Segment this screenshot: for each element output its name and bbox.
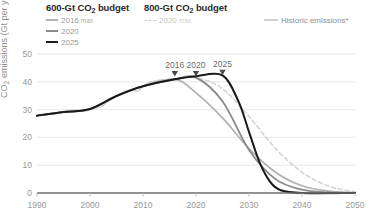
- legend-item-800-2020[interactable]: 2020 max: [144, 15, 227, 25]
- legend-item-800-2020-suffix: max: [179, 17, 191, 24]
- legend-600-title-sub: 2: [92, 7, 96, 14]
- x-tick-label: 2030: [240, 200, 259, 210]
- x-tick-labels: 1990200020102020203020402050: [28, 200, 365, 210]
- x-tick-label: 2020: [187, 200, 206, 210]
- legend-item-600-2020-label: 2020: [61, 27, 79, 36]
- legend-item-historic-label: Historic emissions: [281, 16, 345, 25]
- x-tick-label: 2040: [293, 200, 312, 210]
- x-tick-label: 1990: [28, 200, 47, 210]
- legend-800-title-tail: budget: [193, 2, 227, 13]
- x-tick-label: 2010: [134, 200, 153, 210]
- legend-line-swatch-icon: [264, 19, 278, 21]
- legend-item-historic-marker: *: [345, 16, 348, 25]
- legend-item-historic[interactable]: Historic emissions*: [264, 15, 349, 25]
- y-tick-label: 10: [23, 160, 33, 170]
- legend-group-600gt-title: 600-Gt CO2 budget: [46, 2, 129, 14]
- y-tick-label: 0: [27, 188, 32, 198]
- annotation-label: 2020: [187, 60, 206, 70]
- x-tick-label: 2050: [346, 200, 365, 210]
- emissions-pathways-chart: 600-Gt CO2 budget 2016 max 2020 2025 800…: [0, 0, 372, 223]
- y-tick-label: 40: [23, 77, 33, 87]
- x-axis: [37, 193, 355, 197]
- series-line: [37, 79, 175, 115]
- legend-item-600-2016-suffix: max: [81, 17, 93, 24]
- x-tick-label: 2000: [81, 200, 100, 210]
- y-tick-label: 30: [23, 105, 33, 115]
- year-annotations: 201620202025: [165, 59, 232, 77]
- legend-group-600gt: 600-Gt CO2 budget 2016 max 2020 2025: [46, 2, 129, 47]
- legend-line-swatch-icon: [46, 19, 58, 21]
- plot-svg: 01020304050 1990200020102020203020402050…: [0, 46, 372, 223]
- legend-item-600-2020[interactable]: 2020: [46, 26, 129, 36]
- legend-line-swatch-icon: [46, 41, 58, 43]
- legend-800-title-main: 800-Gt CO: [144, 2, 190, 13]
- legend-group-800gt: 800-Gt CO2 budget 2020 max: [144, 2, 227, 25]
- legend-group-800gt-title: 800-Gt CO2 budget: [144, 2, 227, 14]
- legend-800-title-sub: 2: [190, 7, 194, 14]
- legend-item-600-2016[interactable]: 2016 max: [46, 15, 129, 25]
- series-line: [37, 77, 355, 192]
- legend-item-800-2020-label: 2020: [159, 16, 177, 25]
- chart-legend: 600-Gt CO2 budget 2016 max 2020 2025 800…: [0, 0, 372, 46]
- legend-600-title-tail: budget: [95, 2, 129, 13]
- legend-dashed-line-swatch-icon: [144, 20, 156, 21]
- series-lines: [37, 74, 355, 194]
- annotation-label: 2025: [213, 59, 232, 69]
- y-tick-label: 20: [23, 132, 33, 142]
- y-tick-labels: 01020304050: [23, 49, 33, 198]
- annotation-label: 2016: [165, 60, 184, 70]
- legend-item-600-2016-label: 2016: [61, 16, 79, 25]
- legend-group-historic: Historic emissions*: [264, 14, 349, 25]
- y-tick-label: 50: [23, 49, 33, 59]
- legend-600-title-main: 600-Gt CO: [46, 2, 92, 13]
- plot-area: CO2 emissions (Gt per year) 01020304050 …: [0, 46, 372, 223]
- annotation-triangle-icon: [172, 71, 178, 77]
- legend-line-swatch-icon: [46, 30, 58, 32]
